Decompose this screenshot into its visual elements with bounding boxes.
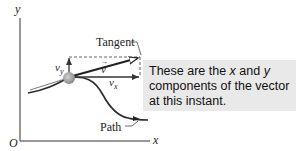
tangent-line — [30, 78, 68, 90]
velocity-components-diagram: y x O Tangent Path → v vx vy These are t… — [0, 0, 299, 151]
particle — [63, 72, 75, 84]
tangent-label: Tangent — [96, 36, 134, 48]
vx-label: vx — [109, 77, 117, 88]
vy-label-subscript: y — [60, 67, 64, 76]
y-axis-label: y — [15, 3, 20, 15]
origin-label: O — [9, 137, 18, 149]
callout-line-3: at this instant. — [149, 94, 296, 109]
path-label: Path — [100, 121, 121, 133]
component-callout: These are the x and y components of the … — [143, 60, 296, 111]
trajectory-path — [28, 77, 148, 120]
x-axis-label: x — [153, 134, 158, 146]
callout-line-1: These are the x and y — [149, 64, 296, 79]
callout-y: y — [264, 64, 270, 78]
velocity-vector-label: v — [101, 64, 106, 75]
vx-label-subscript: x — [114, 82, 118, 91]
path-leader-line — [125, 121, 138, 126]
vy-label: vy — [55, 62, 63, 73]
callout-line-2: components of the vector — [149, 79, 296, 94]
callout-text: These are the — [149, 64, 230, 78]
callout-text: and — [236, 64, 264, 78]
